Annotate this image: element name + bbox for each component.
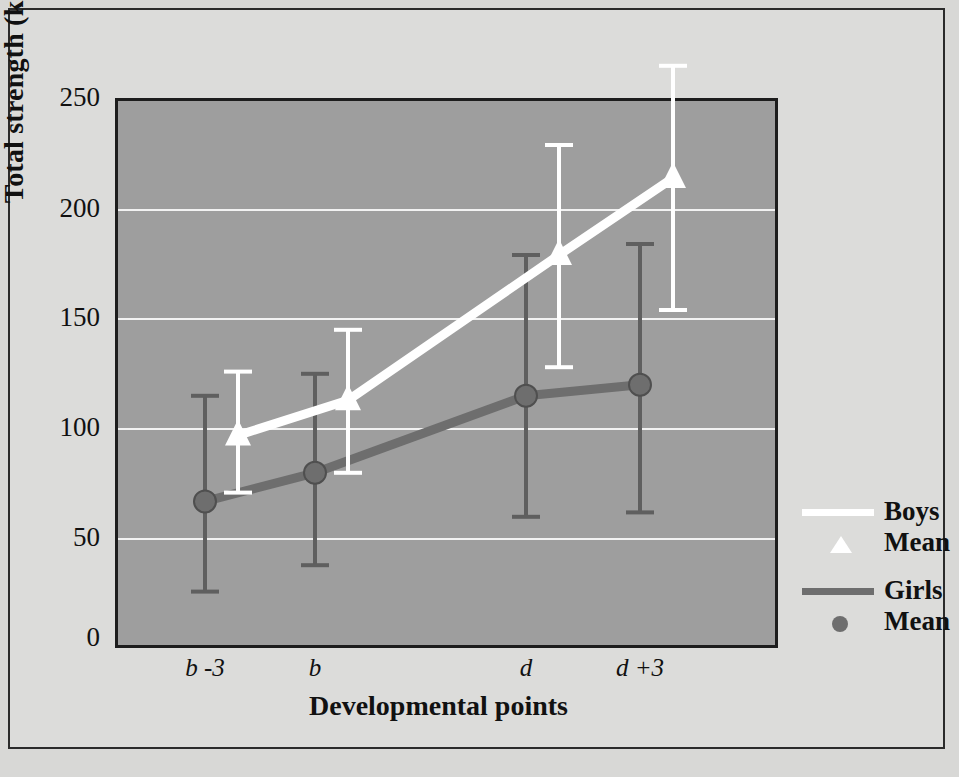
plot-area <box>115 98 778 648</box>
legend-entry-boys-mean: Mean <box>802 528 952 559</box>
gridline-150 <box>118 318 775 320</box>
y-axis-title: Total strength (kg) <box>0 0 30 250</box>
legend-label-boys: Boys <box>884 496 940 527</box>
y-tick-label-200: 200 <box>20 193 100 224</box>
legend-label-boys-mean: Mean <box>884 527 950 558</box>
y-tick-label-100: 100 <box>20 412 100 443</box>
legend-entry-boys: Boys <box>802 497 952 528</box>
gridline-100 <box>118 428 775 430</box>
y-tick-label-50: 50 <box>20 522 100 553</box>
x-axis-title: Developmental points <box>107 690 770 722</box>
legend-label-girls: Girls <box>884 575 943 606</box>
x-tick-label-4: d +3 <box>580 654 700 682</box>
legend-entry-girls: Girls <box>802 576 952 607</box>
triangle-icon <box>830 536 852 553</box>
legend-label-girls-mean: Mean <box>884 606 950 637</box>
x-tick-label-3: d <box>466 654 586 682</box>
page-border-frame: 250 200 150 100 50 0 Total strength (kg)… <box>8 8 945 749</box>
x-tick-label-1: b -3 <box>145 654 265 682</box>
circle-icon <box>832 616 848 632</box>
gridline-50 <box>118 538 775 540</box>
chart-legend: Boys Mean Girls Mean <box>802 497 952 638</box>
scanned-page: 250 200 150 100 50 0 Total strength (kg)… <box>0 0 959 777</box>
y-tick-label-150: 150 <box>20 302 100 333</box>
legend-entry-girls-mean: Mean <box>802 607 952 638</box>
girls-line-swatch-icon <box>802 588 874 595</box>
x-tick-label-2: b <box>255 654 375 682</box>
y-tick-label-0: 0 <box>20 622 100 653</box>
legend-spacer <box>802 559 952 576</box>
gridline-200 <box>118 209 775 211</box>
y-tick-label-250: 250 <box>20 82 100 113</box>
boys-line-swatch-icon <box>802 509 874 516</box>
